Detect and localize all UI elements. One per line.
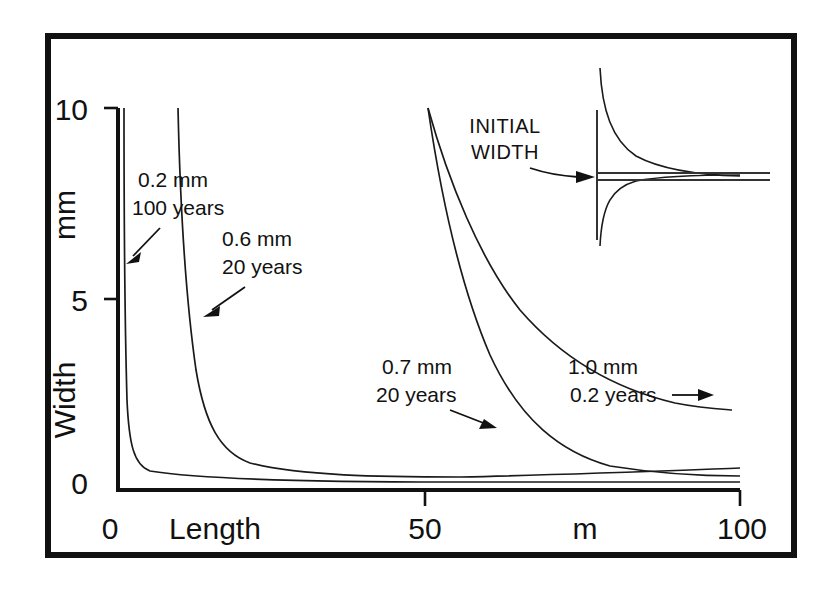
x-tick-label-0: 0: [102, 512, 119, 545]
annotation-0.6mm-line1: 0.6 mm: [222, 227, 292, 250]
annotation-0.7mm-line1: 0.7 mm: [382, 355, 452, 378]
annotation-0.6mm-line2: 20 years: [222, 255, 303, 278]
x-axis-unit-label: m: [573, 512, 598, 545]
y-tick-label-0: 0: [71, 467, 88, 500]
annotation-0.2mm-line2: 100 years: [132, 196, 224, 219]
inset-label-line2: WIDTH: [471, 141, 539, 163]
annotation-0.7mm-line2: 20 years: [376, 383, 457, 406]
inset-label-line1: INITIAL: [469, 115, 540, 137]
y-tick-label-5: 5: [71, 284, 88, 317]
x-tick-label-100: 100: [717, 512, 767, 545]
figure-container: 10 5 0 0 50 100 mm Width Length m 0.2 mm…: [0, 0, 837, 591]
annotation-1.0mm-line2: 0.2 years: [570, 383, 656, 406]
x-tick-label-50: 50: [408, 512, 441, 545]
annotation-1.0mm-line1: 1.0 mm: [568, 355, 638, 378]
annotation-0.2mm-line1: 0.2 mm: [138, 168, 208, 191]
y-axis-unit-label: mm: [48, 190, 81, 240]
x-axis-title: Length: [169, 512, 261, 545]
crack-width-length-chart: 10 5 0 0 50 100 mm Width Length m 0.2 mm…: [0, 0, 837, 591]
y-axis-title: Width: [48, 362, 81, 439]
y-tick-label-10: 10: [55, 93, 88, 126]
